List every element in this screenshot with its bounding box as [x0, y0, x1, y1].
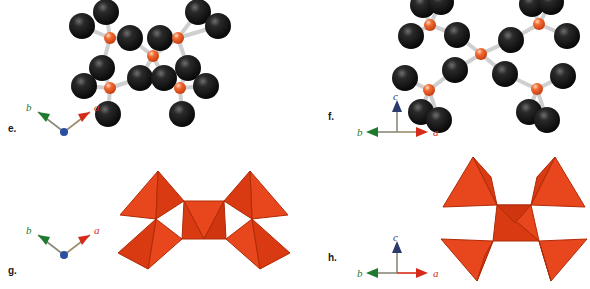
- panel-g: b a g.: [0, 145, 295, 289]
- axis-c-label-f: c: [393, 90, 398, 102]
- axis-a-arrow-h: [416, 268, 428, 278]
- panel-e: b a e.: [0, 0, 295, 144]
- panel-label-e: e.: [8, 123, 16, 134]
- axis-a-arrow-f: [416, 127, 428, 137]
- axis-b-label-g: b: [26, 224, 32, 236]
- axis-b-label-h: b: [357, 267, 363, 279]
- axis-indicator-f: c b a: [357, 92, 453, 142]
- tetrahedra-structure-g: [110, 157, 295, 279]
- axis-origin-dot-e: [60, 128, 68, 136]
- tetrahedra-structure-h: [435, 149, 590, 285]
- crystal-structure-figure: b a e.: [0, 0, 590, 289]
- axis-a-label-g: a: [94, 224, 100, 236]
- axis-indicator-g: b a: [20, 223, 104, 263]
- axis-b-label-e: b: [26, 101, 32, 113]
- axis-a-label-h: a: [433, 267, 439, 279]
- panel-label-g: g.: [8, 265, 17, 276]
- panel-f: c b a f.: [295, 0, 590, 144]
- axis-b-arrow-f: [366, 127, 378, 137]
- axis-indicator-h: c b a: [357, 233, 453, 283]
- axis-b-label-f: b: [357, 126, 363, 138]
- axis-indicator-e: b a: [20, 100, 104, 140]
- axis-a-label-e: a: [94, 101, 100, 113]
- panel-label-f: f.: [328, 111, 334, 122]
- axis-a-label-f: a: [433, 126, 439, 138]
- panel-h: c b a h.: [295, 145, 590, 289]
- axis-c-label-h: c: [393, 231, 398, 243]
- axis-origin-dot-g: [60, 251, 68, 259]
- axis-b-arrow-h: [366, 268, 378, 278]
- panel-label-h: h.: [328, 252, 337, 263]
